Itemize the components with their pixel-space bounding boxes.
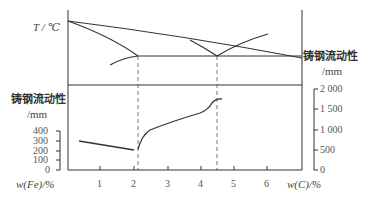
x-tick-3: 3: [165, 179, 170, 189]
temperature-axis-label: T / ℃: [33, 22, 60, 33]
x-tick-6: 6: [264, 179, 269, 189]
x-label-c: w(C)/%: [287, 179, 321, 190]
left-fluidity-unit: /mm: [27, 109, 47, 120]
x-tick-2: 2: [131, 179, 136, 189]
right-fluidity-label: 铸钢流动性: [303, 51, 358, 62]
right-tick-0: 0: [320, 165, 325, 175]
left-fluidity-label: 铸钢流动性: [11, 94, 66, 105]
x-label-fe: w(Fe)/%: [16, 179, 54, 190]
x-tick-1: 1: [97, 179, 102, 189]
right-fluidity-unit: /mm: [322, 66, 342, 77]
right-tick-1500: 1 500: [320, 104, 343, 114]
left-tick-0: 0: [45, 165, 50, 175]
x-tick-4: 4: [198, 179, 203, 189]
right-tick-1000: 1 000: [320, 125, 343, 135]
right-tick-500: 500: [320, 145, 335, 155]
right-tick-2000: 2 000: [320, 84, 343, 94]
x-tick-5: 5: [231, 179, 236, 189]
